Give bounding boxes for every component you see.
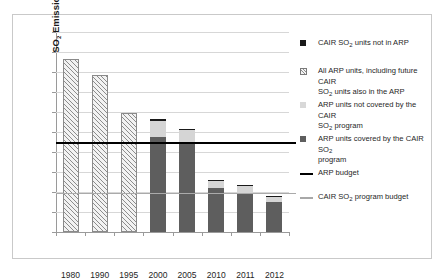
legend-label-line: ARP units not covered by the CAIR [318,100,430,121]
bar-segment-all_arp_hatched [121,113,137,232]
legend-label-line: ARP units covered by the CAIR SO2 [318,134,430,155]
legend-item[interactable]: CAIR SO2 units not in ARP [300,38,430,49]
legend-black-line-icon [300,173,313,175]
y-axis-title: SO2 Emissions (million tons) [50,0,61,68]
bar-segment-arp_not_covered_by_cair [150,121,166,138]
bar-2010 [208,32,224,232]
legend-black-square-icon [300,40,306,46]
bar-segment-arp_not_covered_by_cair [266,197,282,203]
y-tick-mark [52,172,56,173]
bar-1990 [92,32,108,232]
y-axis-title-sub: 2 [56,36,62,39]
x-tick-mark [85,232,86,236]
legend-dark-gray-square-icon [300,136,306,142]
y-tick-mark [52,32,56,33]
bar-segment-arp_not_covered_by_cair [208,181,224,188]
arp-budget-line [56,142,296,145]
bar-segment-arp_covered_by_cair [266,202,282,232]
y-tick-mark [52,132,56,133]
legend-label: CAIR SO2 units not in ARP [318,38,430,49]
legend-hatched-square-icon [300,68,307,75]
legend-label: All ARP units, including future CAIRSO2 … [318,66,430,98]
legend-label-line: SO2 program [318,121,430,132]
bar-segment-cair_not_in_arp [266,196,282,197]
plot-area: SO2 Emissions (million tons) 0.02.04.06.… [56,32,289,232]
x-tick-mark [260,232,261,236]
legend-label-line: CAIR SO2 units not in ARP [318,38,430,49]
x-tick-mark [114,232,115,236]
bar-2011 [237,32,253,232]
bar-segment-arp_covered_by_cair [208,188,224,232]
x-tick-mark [173,232,174,236]
x-tick-mark [289,232,290,236]
legend-label-line: All ARP units, including future CAIR [318,66,430,87]
bar-segment-cair_not_in_arp [237,185,253,186]
y-tick-mark [52,212,56,213]
legend-item[interactable]: ARP budget [300,168,430,179]
y-tick-mark [52,152,56,153]
legend-label: ARP units not covered by the CAIRSO2 pro… [318,100,430,132]
x-tick-mark [231,232,232,236]
legend-item[interactable]: ARP units not covered by the CAIRSO2 pro… [300,100,430,132]
bar-2005 [179,32,195,232]
x-tick-mark [56,232,57,236]
x-tick-mark [202,232,203,236]
bar-segment-arp_covered_by_cair [237,193,253,232]
bar-2012 [266,32,282,232]
y-axis-title-tail: Emissions (million tons) [50,0,61,36]
legend-item[interactable]: CAIR SO2 program budget [300,192,430,203]
bar-segment-all_arp_hatched [92,75,108,232]
bar-segment-cair_not_in_arp [150,119,166,121]
bar-1995 [121,32,137,232]
y-tick-mark [52,52,56,53]
bar-segment-cair_not_in_arp [179,129,195,130]
x-tick-label: 2012 [254,270,294,280]
bar-segment-cair_not_in_arp [208,180,224,182]
y-tick-mark [52,72,56,73]
legend-label-line: SO2 units also in the ARP [318,87,430,98]
cair-budget-line [56,193,296,194]
y-tick-mark [52,92,56,93]
y-axis-title-lead: SO [50,39,61,53]
legend-label: ARP units covered by the CAIR SO2program [318,134,430,166]
legend-label: ARP budget [318,168,430,179]
bar-segment-arp_covered_by_cair [179,144,195,232]
y-tick-mark [52,112,56,113]
legend-label-line: ARP budget [318,168,430,179]
bar-2000 [150,32,166,232]
legend-label-line: CAIR SO2 program budget [318,192,430,203]
bar-1980 [63,32,79,232]
bar-segment-arp_covered_by_cair [150,137,166,232]
legend-gray-line-icon [300,197,313,199]
legend-item[interactable]: All ARP units, including future CAIRSO2 … [300,66,430,98]
x-tick-mark [143,232,144,236]
legend-label: CAIR SO2 program budget [318,192,430,203]
legend-light-gray-square-icon [300,102,306,108]
legend-item[interactable]: ARP units covered by the CAIR SO2program [300,134,430,166]
bar-segment-all_arp_hatched [63,59,79,232]
legend-label-line: program [318,155,430,166]
